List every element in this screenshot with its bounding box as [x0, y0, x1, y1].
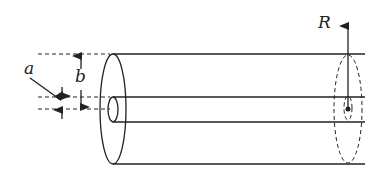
coaxial-cable-diagram: a b R: [0, 0, 389, 175]
label-a: a: [24, 58, 34, 78]
label-R: R: [318, 12, 331, 32]
label-b: b: [75, 66, 86, 86]
